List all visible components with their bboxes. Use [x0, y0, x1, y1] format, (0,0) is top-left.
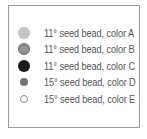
legend-item-color-a: 11° seed bead, color A: [9, 25, 139, 41]
legend-item-color-c: 11° seed bead, color C: [9, 58, 139, 74]
bead-swatch-icon: [18, 60, 30, 72]
bead-legend: 11° seed bead, color A 11° seed bead, co…: [8, 5, 140, 128]
legend-item-color-d: 15° seed bead, color D: [9, 74, 139, 90]
bead-swatch-icon: [18, 27, 30, 39]
bead-swatch-icon: [18, 43, 30, 55]
legend-label: 15° seed bead, color E: [44, 94, 135, 105]
bead-swatch-icon: [20, 78, 28, 86]
bead-swatch-icon: [20, 95, 28, 103]
legend-label: 15° seed bead, color D: [44, 77, 136, 88]
legend-label: 11° seed bead, color C: [44, 61, 135, 72]
legend-item-color-b: 11° seed bead, color B: [9, 41, 139, 57]
legend-item-color-e: 15° seed bead, color E: [9, 91, 139, 107]
legend-label: 11° seed bead, color B: [44, 44, 134, 55]
legend-label: 11° seed bead, color A: [44, 28, 134, 39]
